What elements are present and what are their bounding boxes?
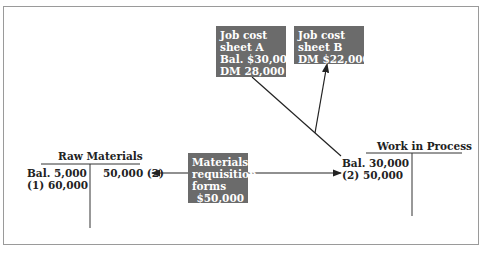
job-cost-sheet-b-box: Job cost sheet B DM $22,000	[294, 26, 364, 64]
debit-entry: (1) 60,000	[27, 179, 88, 191]
box-line: sheet B	[298, 41, 360, 53]
debit-entry: (2) 50,000	[342, 169, 400, 181]
raw-materials-title: Raw Materials	[58, 150, 143, 162]
box-line: forms	[192, 180, 244, 192]
raw-materials-credit: 50,000 (2)	[103, 167, 164, 179]
job-cost-sheet-a-box: Job cost sheet A Bal. $30,000 DM 28,000	[216, 26, 286, 77]
box-line: sheet A	[220, 41, 282, 53]
work-in-process-title: Work in Process	[377, 140, 472, 152]
box-line: Job cost	[220, 29, 282, 41]
box-line: Materials	[192, 156, 244, 168]
debit-entry: Bal. 30,000	[342, 157, 400, 169]
box-line: DM 28,000	[220, 65, 282, 77]
box-line: Bal. $30,000	[220, 53, 282, 65]
box-line: requisition	[192, 168, 244, 180]
raw-materials-debit: Bal. 5,000 (1) 60,000	[27, 167, 88, 191]
box-line: Job cost	[298, 29, 360, 41]
box-line: DM $22,000	[298, 53, 360, 65]
box-line: $50,000	[192, 192, 244, 204]
work-in-process-debit: Bal. 30,000 (2) 50,000	[342, 157, 400, 181]
debit-entry: Bal. 5,000	[27, 167, 88, 179]
credit-entry: 50,000 (2)	[103, 167, 164, 179]
materials-requisition-box: Materials requisition forms $50,000	[188, 153, 248, 203]
